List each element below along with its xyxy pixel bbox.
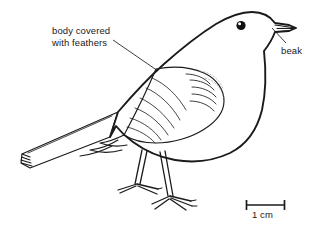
label-body-covered-with-feathers: body covered with feathers bbox=[52, 25, 110, 48]
label-beak: beak bbox=[281, 45, 302, 57]
claw-3 bbox=[158, 188, 162, 189]
label-feathers-line-2: with feathers bbox=[52, 37, 110, 49]
rear-toe-front-2 bbox=[138, 186, 157, 194]
leader-line-feathers bbox=[113, 40, 158, 71]
eye-group bbox=[236, 21, 245, 30]
label-feathers-line-1: body covered bbox=[52, 25, 110, 37]
scale-bar-caption: 1 cm bbox=[252, 209, 273, 221]
claw-1 bbox=[191, 200, 196, 201]
tail-group bbox=[21, 112, 118, 168]
bird-anatomy-diagram: body covered with feathers beak 1 cm bbox=[0, 0, 315, 235]
body-outline bbox=[110, 12, 296, 161]
bird-body-silhouette bbox=[110, 12, 296, 161]
front-toe-4 bbox=[155, 199, 169, 209]
tail-body bbox=[21, 112, 118, 168]
eye-pupil bbox=[236, 21, 245, 30]
bird-line-drawing bbox=[0, 0, 315, 235]
eye-highlight bbox=[238, 22, 241, 25]
